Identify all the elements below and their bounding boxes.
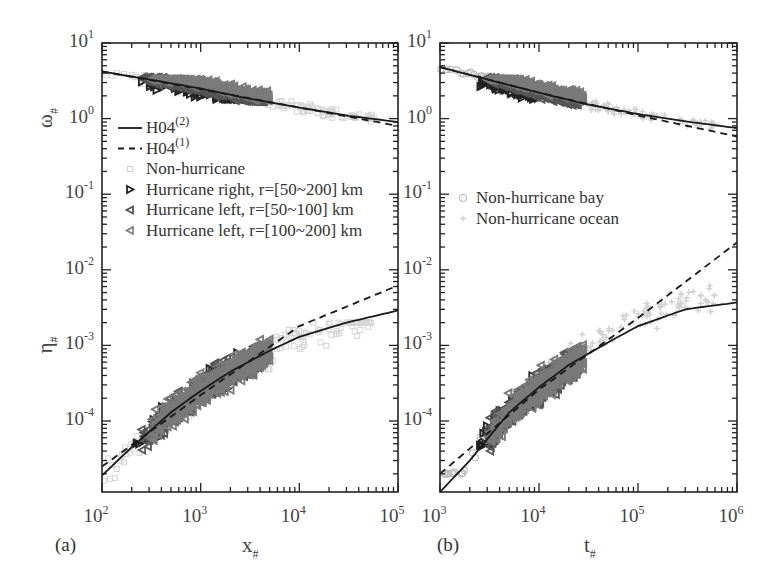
- scatter-point: [568, 340, 574, 346]
- scatter-point: [702, 118, 708, 124]
- x-tick-label: 106: [719, 503, 744, 526]
- panel-b-label: (b): [437, 534, 459, 556]
- plot-frame: [102, 43, 398, 492]
- legend-item: Hurricane left, r=[100~200] km: [127, 221, 363, 240]
- y-tick-label: 10-4: [65, 405, 94, 429]
- legend-right-triangle-icon: [127, 186, 134, 193]
- scatter-point: [579, 331, 585, 337]
- scatter-point: [505, 390, 512, 397]
- legend-label: Non-hurricane ocean: [476, 209, 620, 228]
- scatter-point: [139, 447, 146, 454]
- scatter-point: [698, 300, 704, 306]
- legend-label: H04(1): [146, 135, 189, 158]
- scatter-point: [684, 295, 690, 301]
- panel-a-legend: H04(2)H04(1)Non-hurricaneHurricane right…: [118, 114, 363, 240]
- panel-a-ylabel-omega: ω#: [33, 108, 61, 128]
- legend-item: H04(1): [118, 135, 189, 158]
- scatter-point: [537, 362, 544, 369]
- y-tick-label: 10-3: [65, 329, 94, 353]
- x-tick-label: 102: [84, 503, 109, 526]
- legend-label: Hurricane right, r=[50~200] km: [146, 180, 363, 199]
- scatter-point: [284, 344, 289, 349]
- legend-label: Non-hurricane: [146, 159, 245, 178]
- x-tick-label: 104: [281, 503, 306, 526]
- scatter-point: [698, 293, 704, 299]
- y-tick-label: 10-2: [65, 254, 94, 278]
- panel-a-ylabel-eta: η#: [33, 337, 61, 354]
- scatter-point: [658, 311, 664, 317]
- y-tick-label: 10-1: [403, 178, 432, 202]
- fit-line-solid: [440, 302, 737, 492]
- legend-square-marker-icon: [128, 167, 133, 172]
- scatter-point: [686, 289, 692, 295]
- scatter-point: [134, 434, 139, 439]
- panel-b-xlabel: t#: [584, 533, 596, 561]
- x-tick-label: 103: [422, 503, 447, 526]
- panel-a-label: (a): [55, 534, 76, 556]
- legend-left-triangle-icon: [127, 227, 134, 234]
- fit-line-solid: [102, 310, 398, 475]
- panel-b-scatter: [438, 66, 718, 477]
- scatter-point: [358, 327, 363, 332]
- y-tick-label: 100: [69, 103, 94, 127]
- x-tick-label: 105: [380, 503, 405, 526]
- fit-line-dashed: [440, 242, 737, 473]
- x-tick-label: 104: [521, 503, 546, 526]
- legend-label: Hurricane left, r=[100~200] km: [146, 221, 362, 240]
- y-tick-label: 10-2: [403, 254, 432, 278]
- legend-item: Hurricane right, r=[50~200] km: [127, 180, 363, 199]
- figure: 10210310410510110010-110-210-310-4 H04(2…: [0, 0, 781, 582]
- y-tick-label: 100: [407, 103, 432, 127]
- legend-circle-marker-icon: [460, 195, 467, 202]
- legend-label: Non-hurricane bay: [476, 188, 604, 207]
- y-tick-label: 10-1: [65, 178, 94, 202]
- scatter-point: [708, 309, 714, 315]
- scatter-point: [338, 325, 343, 330]
- scatter-point: [654, 325, 660, 331]
- scatter-point: [669, 299, 675, 305]
- scatter-point: [711, 292, 717, 298]
- legend-plus-marker-icon: [460, 216, 466, 222]
- x-tick-label: 105: [620, 503, 645, 526]
- panel-b-legend: Non-hurricane bayNon-hurricane ocean: [460, 188, 620, 228]
- scatter-point: [294, 109, 299, 114]
- legend-item: Hurricane left, r=[50~100] km: [127, 200, 354, 219]
- panel-a-xlabel: x#: [242, 533, 259, 561]
- panel-b: 10310410510610110010-110-210-310-4 Non-h…: [403, 27, 744, 561]
- scatter-point: [690, 289, 696, 295]
- panel-a: 10210310410510110010-110-210-310-4 H04(2…: [33, 27, 405, 561]
- scatter-point: [707, 283, 713, 289]
- scatter-point: [274, 334, 279, 339]
- legend-item: Non-hurricane ocean: [460, 209, 620, 228]
- scatter-point: [274, 337, 279, 342]
- scatter-point: [114, 467, 119, 472]
- panel-a-scatter: [101, 71, 376, 484]
- scatter-point: [679, 292, 685, 298]
- legend-item: Non-hurricane: [128, 159, 246, 178]
- scatter-point: [318, 340, 323, 345]
- legend-label: Hurricane left, r=[50~100] km: [146, 200, 354, 219]
- y-tick-label: 10-3: [403, 329, 432, 353]
- y-tick-label: 101: [69, 27, 94, 51]
- scatter-point: [631, 308, 637, 314]
- legend-left-triangle-icon: [127, 207, 134, 214]
- y-tick-label: 101: [407, 27, 432, 51]
- scatter-point: [324, 343, 329, 348]
- legend-item: Non-hurricane bay: [460, 188, 605, 207]
- y-tick-label: 10-4: [403, 405, 432, 429]
- scatter-point: [291, 344, 296, 349]
- x-tick-label: 103: [182, 503, 207, 526]
